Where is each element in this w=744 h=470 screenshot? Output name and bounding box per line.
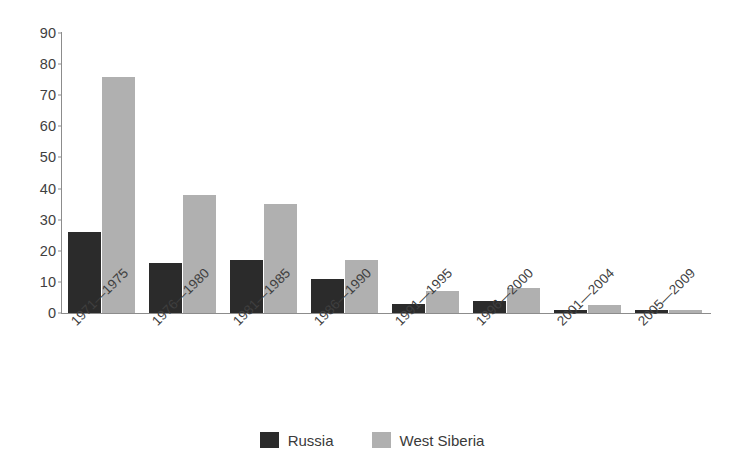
y-axis-tick-label: 90 <box>22 26 56 41</box>
y-axis-ticks: 9080706050403020100 <box>0 0 56 470</box>
y-axis-tick-label: 50 <box>22 150 56 165</box>
bar-group <box>62 33 143 313</box>
legend-item-west-siberia: West Siberia <box>372 432 485 448</box>
bar-group <box>305 33 386 313</box>
y-axis-tick-label: 0 <box>22 306 56 321</box>
bar-group <box>143 33 224 313</box>
bar-group <box>548 33 629 313</box>
y-axis-tick-label: 40 <box>22 181 56 196</box>
bar-group <box>629 33 710 313</box>
bar-group <box>467 33 548 313</box>
legend-item-russia: Russia <box>260 432 334 448</box>
legend-label-russia: Russia <box>288 433 334 448</box>
y-axis-tick-label: 70 <box>22 88 56 103</box>
legend-swatch-russia <box>260 432 279 448</box>
y-axis-tick-label: 60 <box>22 119 56 134</box>
y-axis-tick-label: 30 <box>22 212 56 227</box>
y-axis-tick-label: 10 <box>22 275 56 290</box>
legend-swatch-west-siberia <box>372 432 391 448</box>
bar-chart: 9080706050403020100 Russia West Siberia … <box>0 0 744 470</box>
bar-west-siberia <box>588 305 621 313</box>
y-axis-tick-label: 20 <box>22 244 56 259</box>
legend-label-west-siberia: West Siberia <box>400 433 485 448</box>
y-axis-tick-label: 80 <box>22 57 56 72</box>
bar-group <box>386 33 467 313</box>
chart-legend: Russia West Siberia <box>0 432 744 448</box>
bar-west-siberia <box>669 310 702 313</box>
bar-group <box>224 33 305 313</box>
